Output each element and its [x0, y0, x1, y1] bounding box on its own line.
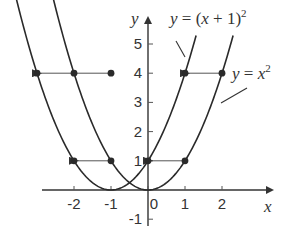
data-point [182, 70, 189, 77]
svg-text:y = x2: y = x2 [230, 62, 271, 83]
equation-label-shifted: y = (x + 1)2 [168, 7, 247, 57]
eq-shifted-exp: 2 [241, 7, 247, 19]
leader-line-shifted [176, 41, 185, 57]
x-tick-label: 2 [218, 195, 226, 212]
y-tick-label: -1 [129, 210, 142, 227]
x-tick-label: -2 [67, 195, 80, 212]
y-tick-label: 1 [134, 152, 142, 169]
curve-shifted-parabola [15, 0, 196, 190]
curves [15, 0, 233, 190]
tick-labels: -2-1012-112345 [67, 35, 226, 227]
parabola-shift-chart: -2-1012-112345 x y y = (x + 1)2 y = x2 [0, 0, 289, 228]
data-point [34, 70, 41, 77]
data-point [71, 157, 78, 164]
curve-base-parabola [52, 0, 233, 190]
data-point [108, 157, 115, 164]
x-axis-label: x [263, 197, 272, 216]
data-point [219, 70, 226, 77]
marked-points [34, 70, 226, 164]
eq-base-mid: = [240, 64, 258, 83]
x-tick-label: 1 [181, 195, 189, 212]
shift-arrows [41, 73, 222, 161]
y-tick-label: 4 [134, 64, 142, 81]
eq-shifted-y: y [168, 9, 178, 28]
eq-shifted-suffix: + 1) [209, 9, 241, 28]
y-tick-label: 3 [134, 93, 142, 110]
leader-line-base [221, 88, 247, 103]
data-point [71, 70, 78, 77]
y-tick-label: 2 [134, 123, 142, 140]
data-point [108, 70, 115, 77]
data-point [182, 157, 189, 164]
x-tick-label: 0 [150, 195, 158, 212]
x-tick-label: -1 [104, 195, 117, 212]
eq-shifted-mid: = ( [178, 9, 202, 28]
y-axis-label: y [129, 9, 139, 28]
y-tick-label: 5 [134, 35, 142, 52]
equation-label-base: y = x2 [221, 62, 271, 103]
eq-base-y: y [230, 64, 240, 83]
data-point [145, 157, 152, 164]
eq-base-exp: 2 [265, 62, 271, 74]
svg-text:y = (x + 1)2: y = (x + 1)2 [168, 7, 247, 28]
